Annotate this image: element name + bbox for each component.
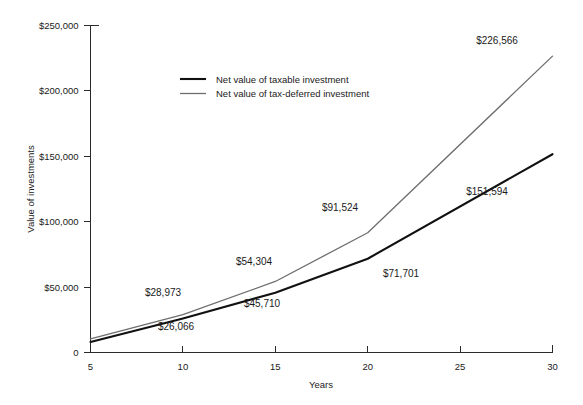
data-series-group bbox=[91, 56, 553, 342]
line-chart: 0$50,000$100,000$150,000$200,000$250,000… bbox=[0, 0, 583, 405]
y-tick-label: $50,000 bbox=[44, 282, 78, 293]
y-tick-label: 0 bbox=[73, 347, 78, 358]
data-point-label: $26,066 bbox=[158, 321, 195, 332]
legend-label: Net value of tax-deferred investment bbox=[216, 88, 369, 99]
data-point-label: $151,594 bbox=[466, 186, 508, 197]
chart-legend: Net value of taxable investmentNet value… bbox=[180, 74, 369, 100]
data-point-label: $71,701 bbox=[383, 268, 420, 279]
x-axis-title: Years bbox=[309, 379, 333, 390]
data-point-label: $28,973 bbox=[145, 287, 182, 298]
legend-label: Net value of taxable investment bbox=[216, 74, 349, 85]
x-tick-label: 5 bbox=[88, 361, 93, 372]
data-point-label: $45,710 bbox=[244, 298, 281, 309]
x-tick-label: 15 bbox=[270, 361, 281, 372]
x-tick-label: 25 bbox=[455, 361, 466, 372]
data-point-label: $91,524 bbox=[322, 202, 359, 213]
data-point-label: $226,566 bbox=[476, 35, 518, 46]
y-tick-label: $250,000 bbox=[39, 20, 79, 31]
x-tick-label: 30 bbox=[547, 361, 558, 372]
x-tick-label: 10 bbox=[178, 361, 189, 372]
chart-canvas: 0$50,000$100,000$150,000$200,000$250,000… bbox=[0, 0, 583, 405]
y-axis-title: Value of investments bbox=[25, 145, 36, 233]
data-point-label: $54,304 bbox=[236, 256, 273, 267]
y-tick-label: $100,000 bbox=[39, 216, 79, 227]
y-tick-label: $200,000 bbox=[39, 85, 79, 96]
y-axis-ticks: 0$50,000$100,000$150,000$200,000$250,000 bbox=[39, 20, 91, 358]
x-axis-ticks: 51015202530 bbox=[88, 346, 558, 372]
series-line bbox=[91, 154, 553, 342]
x-tick-label: 20 bbox=[362, 361, 373, 372]
y-tick-label: $150,000 bbox=[39, 151, 79, 162]
